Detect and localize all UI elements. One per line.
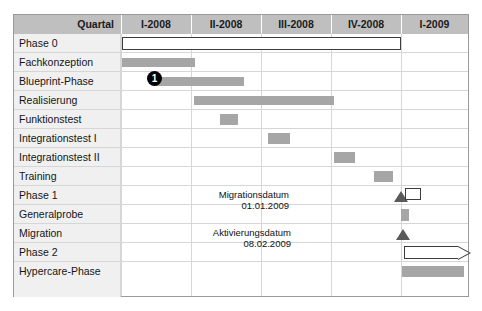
- table-row[interactable]: Integrationstest I: [14, 129, 468, 148]
- table-footer-filler: [14, 281, 121, 297]
- row-plot-phase-1: [121, 186, 468, 204]
- table-row[interactable]: Training: [14, 167, 468, 186]
- gantt-chart-root: Quartal I-2008 II-2008 III-2008 IV-2008 …: [0, 0, 482, 311]
- annotation-migrationsdatum-label: Migrationsdatum: [194, 189, 289, 200]
- table-row[interactable]: Hypercare-Phase: [14, 262, 468, 281]
- callout-badge-1[interactable]: 1: [147, 71, 162, 86]
- row-label-funktionstest: Funktionstest: [14, 110, 121, 128]
- gantt-bar-fachkonzeption[interactable]: [122, 58, 195, 67]
- header-cell-q2-2008: II-2008: [191, 15, 261, 34]
- gantt-bar-training[interactable]: [374, 171, 393, 182]
- header-cell-q4-2008: IV-2008: [331, 15, 401, 34]
- row-label-realisierung: Realisierung: [14, 91, 121, 109]
- row-plot-integrationstest-ii: [121, 148, 468, 166]
- row-plot-fachkonzeption: [121, 53, 468, 71]
- row-plot-phase-0: [121, 34, 468, 52]
- annotation-aktivierungsdatum-date: 08.02.2009: [192, 238, 291, 249]
- header-divider: [121, 15, 122, 34]
- gantt-bar-hypercare-phase[interactable]: [402, 266, 464, 277]
- row-label-integrationstest-ii: Integrationstest II: [14, 148, 121, 166]
- table-row[interactable]: Blueprint-Phase: [14, 72, 468, 91]
- gantt-bar-generalprobe[interactable]: [401, 209, 409, 221]
- row-plot-generalprobe: [121, 205, 468, 223]
- row-plot-phase-2: [121, 243, 468, 261]
- row-plot-hypercare-phase: [121, 262, 468, 281]
- milestone-box-phase-1[interactable]: [405, 188, 421, 200]
- milestone-triangle-migration[interactable]: [396, 229, 410, 240]
- gantt-bar-integrationstest-i[interactable]: [268, 133, 290, 144]
- gantt-bar-phase-0[interactable]: [122, 37, 401, 50]
- row-label-migration: Migration: [14, 224, 121, 242]
- row-plot-blueprint-phase: [121, 72, 468, 90]
- row-plot-realisierung: [121, 91, 468, 109]
- row-plot-migration: [121, 224, 468, 242]
- table-row[interactable]: Realisierung: [14, 91, 468, 110]
- gantt-table: Quartal I-2008 II-2008 III-2008 IV-2008 …: [13, 14, 469, 297]
- gantt-bar-funktionstest[interactable]: [220, 114, 238, 125]
- header-cell-q1-2008: I-2008: [121, 15, 191, 34]
- table-row[interactable]: Funktionstest: [14, 110, 468, 129]
- row-label-generalprobe: Generalprobe: [14, 205, 121, 223]
- gantt-bar-blueprint-phase[interactable]: [154, 77, 244, 86]
- header-cell-q3-2008: III-2008: [261, 15, 331, 34]
- row-label-blueprint-phase: Blueprint-Phase: [14, 72, 121, 90]
- row-label-training: Training: [14, 167, 121, 185]
- row-label-fachkonzeption: Fachkonzeption: [14, 53, 121, 71]
- row-label-phase-2: Phase 2: [14, 243, 121, 261]
- header-divider: [191, 15, 192, 34]
- row-plot-integrationstest-i: [121, 129, 468, 147]
- gantt-bar-realisierung[interactable]: [194, 96, 334, 105]
- row-label-phase-0: Phase 0: [14, 34, 121, 52]
- header-cell-q1-2009: I-2009: [401, 15, 468, 34]
- row-plot-funktionstest: [121, 110, 468, 128]
- gantt-bar-phase-2[interactable]: [404, 246, 458, 259]
- header-divider: [331, 15, 332, 34]
- table-row[interactable]: Integrationstest II: [14, 148, 468, 167]
- row-label-phase-1: Phase 1: [14, 186, 121, 204]
- header-divider: [401, 15, 402, 34]
- gantt-header-row: Quartal I-2008 II-2008 III-2008 IV-2008 …: [14, 15, 468, 34]
- table-row[interactable]: Fachkonzeption: [14, 53, 468, 72]
- row-label-hypercare-phase: Hypercare-Phase: [14, 262, 121, 281]
- annotation-migrationsdatum-date: 01.01.2009: [194, 200, 289, 211]
- row-label-integrationstest-i: Integrationstest I: [14, 129, 121, 147]
- gantt-bar-integrationstest-ii[interactable]: [334, 152, 355, 163]
- arrow-tip-inner-icon: [458, 247, 469, 259]
- row-plot-training: [121, 167, 468, 185]
- annotation-aktivierungsdatum-label: Aktivierungsdatum: [192, 227, 291, 238]
- table-row[interactable]: Phase 0: [14, 34, 468, 53]
- header-cell-quartal: Quartal: [14, 15, 121, 34]
- header-divider: [261, 15, 262, 34]
